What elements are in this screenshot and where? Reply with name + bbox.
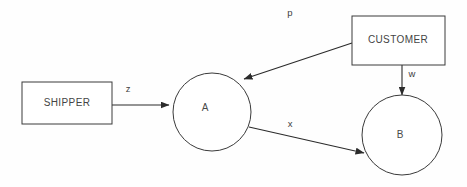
edge-z[interactable]: z [112, 83, 169, 105]
node-b[interactable]: B [362, 95, 442, 175]
node-a-circle [173, 73, 251, 151]
edge-x-line [249, 127, 364, 153]
node-shipper-label: SHIPPER [44, 97, 91, 108]
edge-x[interactable]: x [249, 118, 364, 153]
node-b-label: B [397, 129, 404, 140]
edge-p-line [244, 43, 352, 79]
node-a-label: A [202, 102, 209, 113]
edge-w[interactable]: w [402, 65, 416, 95]
edge-p-label: p [287, 7, 292, 18]
edge-z-label: z [126, 83, 131, 94]
node-shipper[interactable]: SHIPPER [22, 82, 112, 124]
edge-w-label: w [408, 68, 416, 79]
edge-p[interactable]: p [244, 7, 352, 79]
node-a[interactable]: A [173, 73, 251, 151]
diagram-canvas: z p x w SHIPPER A CUSTOMER [0, 0, 467, 187]
diagram-svg: z p x w SHIPPER A CUSTOMER [0, 0, 467, 187]
edge-x-label: x [288, 118, 293, 129]
node-customer[interactable]: CUSTOMER [352, 16, 445, 65]
node-customer-label: CUSTOMER [368, 34, 428, 45]
